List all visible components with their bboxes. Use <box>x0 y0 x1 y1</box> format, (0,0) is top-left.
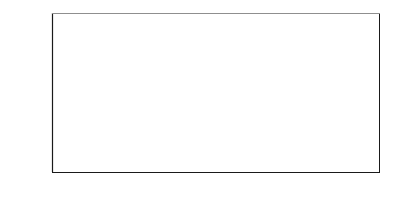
line-chart <box>0 0 393 213</box>
chart-background <box>0 0 393 213</box>
chart-container <box>0 0 393 213</box>
